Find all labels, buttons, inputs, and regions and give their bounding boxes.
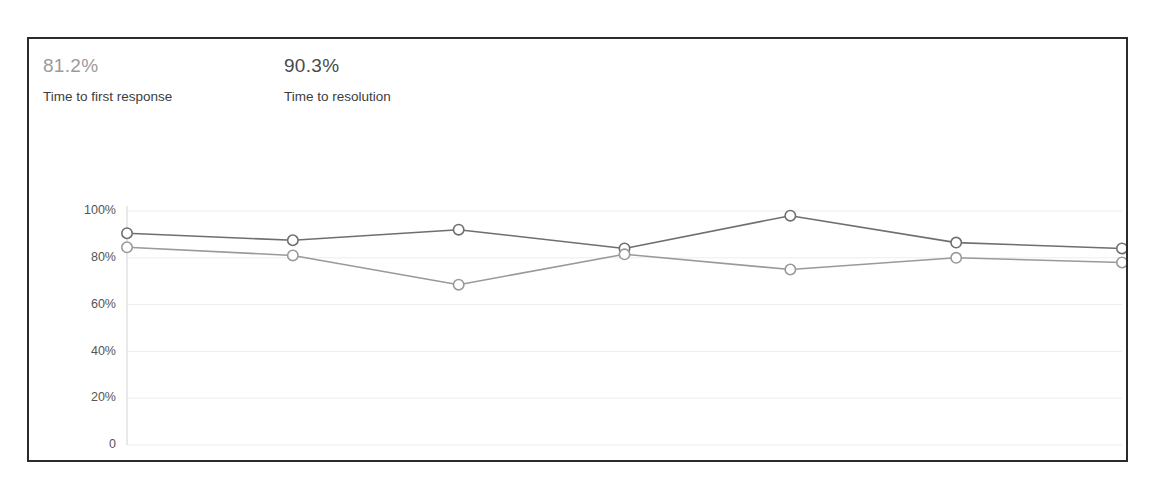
series-layer	[122, 210, 1126, 289]
data-point[interactable]	[951, 237, 961, 247]
data-point[interactable]	[453, 225, 463, 235]
support-sla-panel: 81.2% Time to first response 90.3% Time …	[27, 37, 1128, 462]
stat-value: 81.2%	[43, 54, 284, 78]
data-point[interactable]	[453, 280, 463, 290]
stat-summary-row: 81.2% Time to first response 90.3% Time …	[43, 54, 391, 107]
data-point[interactable]	[785, 264, 795, 274]
data-point[interactable]	[785, 210, 795, 220]
line-chart: 020%40%60%80%100% 1 Nov2 Nov3 Nov4 Nov5 …	[29, 149, 1126, 460]
stat-label: Time to first response	[43, 87, 284, 107]
y-tick-label: 60%	[91, 297, 116, 311]
data-point[interactable]	[1117, 257, 1126, 267]
data-point[interactable]	[288, 235, 298, 245]
series-1	[122, 210, 1126, 253]
stat-value: 90.3%	[284, 54, 391, 78]
data-point[interactable]	[122, 242, 132, 252]
y-axis-tick-labels: 020%40%60%80%100%	[84, 203, 116, 451]
y-tick-label: 40%	[91, 344, 116, 358]
data-point[interactable]	[288, 250, 298, 260]
data-point[interactable]	[619, 249, 629, 259]
series-2	[122, 242, 1126, 290]
y-tick-label: 0	[109, 437, 116, 451]
chart-canvas: 020%40%60%80%100% 1 Nov2 Nov3 Nov4 Nov5 …	[29, 149, 1126, 460]
stat-time-to-first-response: 81.2% Time to first response	[43, 54, 284, 107]
y-tick-label: 100%	[84, 203, 116, 217]
y-tick-label: 20%	[91, 390, 116, 404]
stat-time-to-resolution: 90.3% Time to resolution	[284, 54, 391, 107]
data-point[interactable]	[951, 253, 961, 263]
data-point[interactable]	[122, 228, 132, 238]
data-point[interactable]	[1117, 243, 1126, 253]
stat-label: Time to resolution	[284, 87, 391, 107]
y-tick-label: 80%	[91, 250, 116, 264]
